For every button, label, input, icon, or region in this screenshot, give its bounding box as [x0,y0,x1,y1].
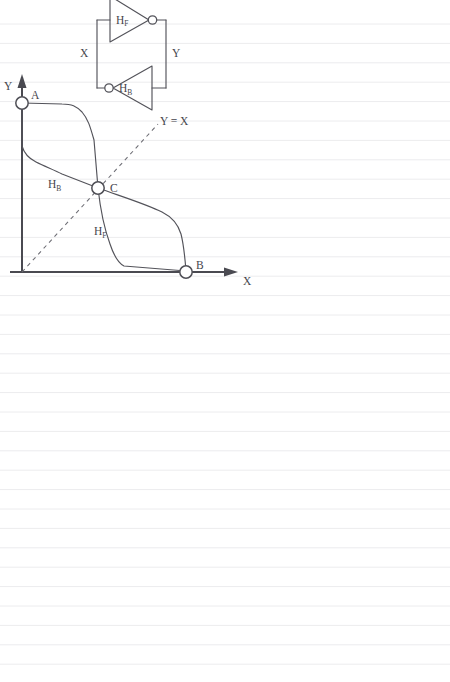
figure-drawing: HF HB X Y Y X Y = X HF [0,0,450,682]
circuit-node-label-x: X [80,47,89,59]
notebook-page: HF HB X Y Y X Y = X HF [0,0,450,682]
diagonal-label: Y = X [160,115,189,127]
inverter-hb-label: HB [119,82,132,97]
axis-y-label: Y [4,80,13,92]
point-b-label: B [196,259,204,271]
axis-x-label: X [243,275,252,287]
inverter-hb-bubble [105,84,113,92]
point-c-label: C [110,182,118,194]
axis-x-arrowhead [224,268,238,277]
point-b-marker [180,266,192,278]
axis-y-arrowhead [18,74,27,88]
circuit-node-label-y: Y [172,47,181,59]
inverter-hf-label: HF [116,14,128,29]
circuit-cross-coupled-inverters: HF HB X Y [80,0,181,110]
curve-hb-label: HB [48,178,61,193]
diagonal-dashed-line [22,124,158,272]
diagonal-y-equals-x: Y = X [22,115,189,272]
plot-axes: Y X [4,74,252,287]
point-a-marker [16,97,28,109]
inverter-hf-bubble [148,16,156,24]
point-a-label: A [31,89,40,101]
point-c-marker [92,182,104,194]
